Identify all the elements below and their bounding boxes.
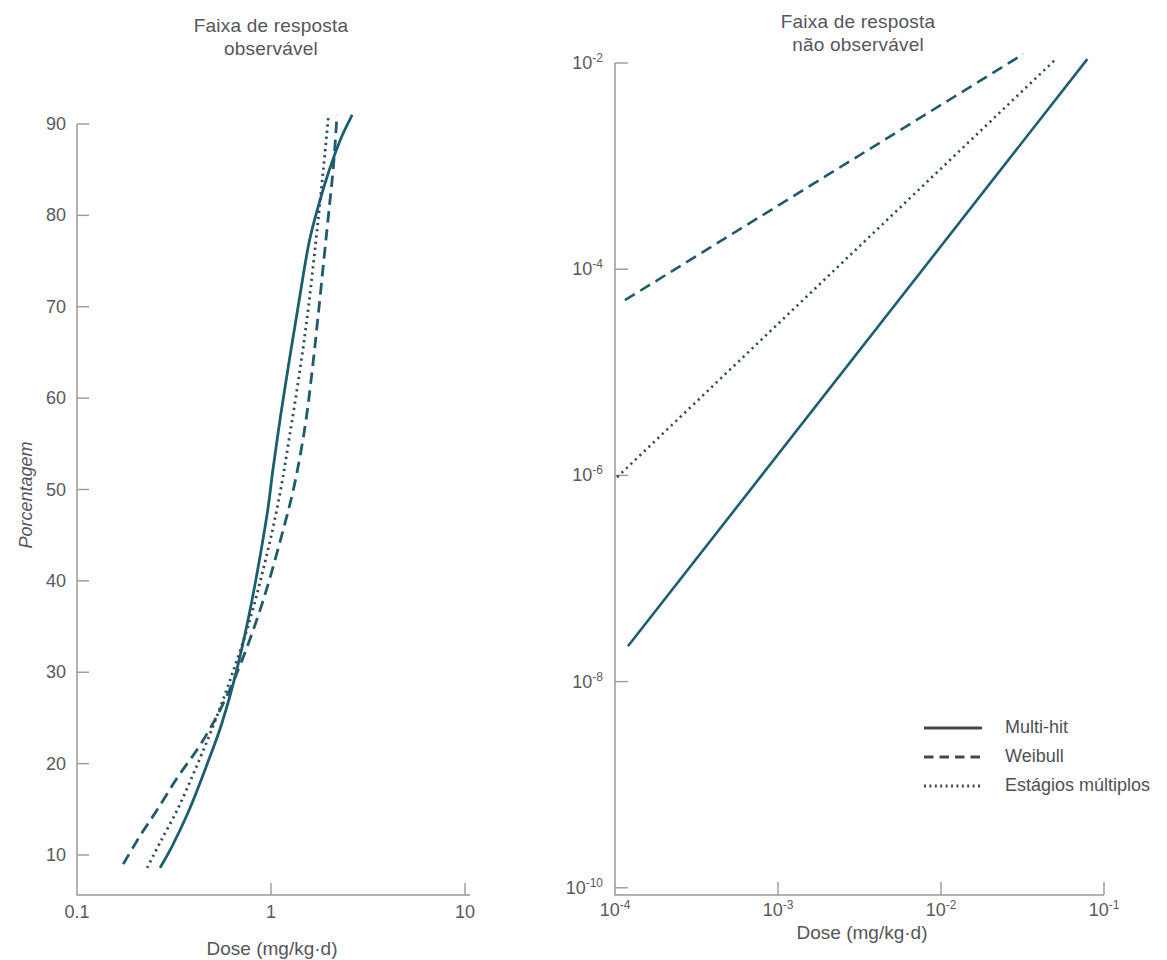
right-line-solid <box>628 59 1087 646</box>
svg-text:70: 70 <box>46 297 66 317</box>
svg-text:10-4: 10-4 <box>600 898 631 920</box>
legend: Multi-hit Weibull Estágios múltiplos <box>923 713 1150 800</box>
dotted-line-swatch-icon <box>923 781 983 791</box>
legend-item-weibull: Weibull <box>923 742 1150 771</box>
left-curve-dashed <box>123 115 337 864</box>
left-plot-ticks: 1020304050607080900.1110 <box>46 114 475 922</box>
svg-text:10: 10 <box>46 845 66 865</box>
left-curve-solid <box>160 115 352 868</box>
svg-text:10-2: 10-2 <box>926 898 957 920</box>
solid-line-swatch-icon <box>923 723 983 733</box>
svg-text:50: 50 <box>46 480 66 500</box>
svg-text:10-2: 10-2 <box>572 51 603 73</box>
svg-text:20: 20 <box>46 754 66 774</box>
svg-text:60: 60 <box>46 388 66 408</box>
legend-label-multi-hit: Multi-hit <box>1005 717 1068 738</box>
svg-text:1: 1 <box>266 902 276 922</box>
svg-text:30: 30 <box>46 662 66 682</box>
right-line-dashed <box>625 54 1023 300</box>
right-x-axis-label: Dose (mg/kg·d) <box>752 922 972 944</box>
svg-text:0.1: 0.1 <box>64 902 89 922</box>
left-x-axis-label: Dose (mg/kg·d) <box>162 938 382 960</box>
svg-text:10-8: 10-8 <box>572 670 603 692</box>
svg-text:10-1: 10-1 <box>1089 898 1120 920</box>
left-curve-dotted <box>147 115 328 868</box>
left-plot-series <box>123 115 352 868</box>
right-plot-series <box>617 54 1087 646</box>
svg-text:40: 40 <box>46 571 66 591</box>
svg-text:90: 90 <box>46 114 66 134</box>
svg-text:80: 80 <box>46 205 66 225</box>
left-plot-axes <box>77 124 470 895</box>
right-line-dotted <box>617 60 1055 477</box>
svg-text:10-4: 10-4 <box>572 257 603 279</box>
legend-item-multi-hit: Multi-hit <box>923 713 1150 742</box>
plot-canvas: 1020304050607080900.111010-210-410-610-8… <box>0 0 1167 960</box>
svg-text:10: 10 <box>455 902 475 922</box>
legend-label-weibull: Weibull <box>1005 746 1064 767</box>
svg-text:10-10: 10-10 <box>566 876 604 898</box>
legend-label-estagios-multiplos: Estágios múltiplos <box>1005 775 1150 796</box>
dashed-line-swatch-icon <box>923 752 983 762</box>
svg-text:10-3: 10-3 <box>763 898 794 920</box>
legend-item-estagios-multiplos: Estágios múltiplos <box>923 771 1150 800</box>
svg-text:10-6: 10-6 <box>572 463 603 485</box>
